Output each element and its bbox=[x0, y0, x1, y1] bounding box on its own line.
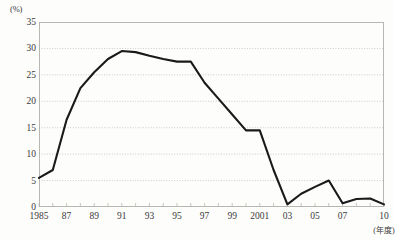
x-tick-label: 05 bbox=[310, 211, 320, 221]
x-tick-label: 10 bbox=[379, 211, 389, 221]
x-tick-label: 93 bbox=[145, 211, 155, 221]
x-tick-label: 99 bbox=[227, 211, 237, 221]
x-axis-caption: (年度) bbox=[373, 224, 394, 235]
x-tick-label: 91 bbox=[117, 211, 127, 221]
x-tick-label: 03 bbox=[283, 211, 293, 221]
x-tick-label: 07 bbox=[338, 211, 348, 221]
x-tick-label: 1985 bbox=[30, 211, 49, 221]
x-tick-label: 95 bbox=[172, 211, 182, 221]
x-tick-label: 89 bbox=[89, 211, 99, 221]
x-tick-label: 2001 bbox=[250, 211, 269, 221]
x-tick-label: 97 bbox=[200, 211, 210, 221]
x-tick-label: 87 bbox=[62, 211, 72, 221]
